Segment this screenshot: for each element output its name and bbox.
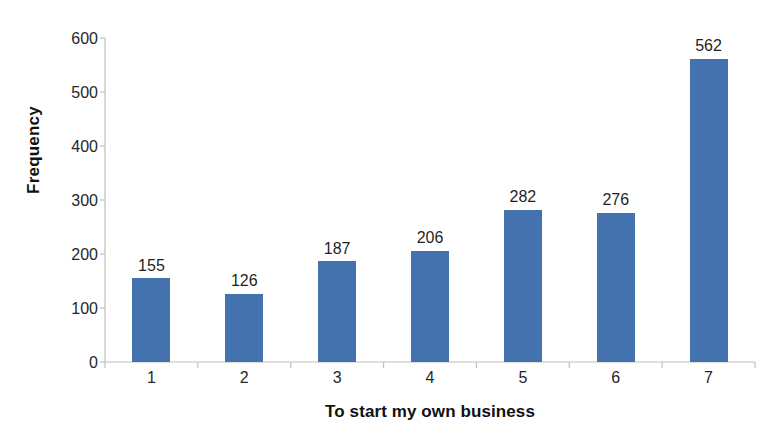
y-axis-title: Frequency [24,95,44,205]
y-tick-label-100: 100 [52,301,98,317]
x-tick-label-3: 3 [291,370,384,386]
bar-group-6: 276 [569,38,662,362]
bar-category-4[interactable] [411,251,449,362]
y-tick-label-400: 400 [52,139,98,155]
y-tick-label-500: 500 [52,85,98,101]
bar-category-7[interactable] [690,59,728,362]
y-tick-label-200: 200 [52,247,98,263]
bar-value-label-7: 562 [662,38,755,54]
y-axis-tick-labels: 600 500 400 300 200 100 0 [52,0,98,447]
x-tick-label-7: 7 [662,370,755,386]
x-axis-title: To start my own business [105,402,755,422]
bar-group-2: 126 [198,38,291,362]
x-tick-label-2: 2 [198,370,291,386]
bar-group-4: 206 [384,38,477,362]
bar-category-1[interactable] [132,278,170,362]
bar-category-5[interactable] [504,210,542,362]
bar-value-label-1: 155 [105,258,198,274]
bar-chart: Frequency 600 500 400 300 200 100 0 [0,0,782,447]
bar-value-label-2: 126 [198,273,291,289]
bar-group-3: 187 [291,38,384,362]
x-tick-label-1: 1 [105,370,198,386]
bar-value-label-6: 276 [569,192,662,208]
y-tick-label-600: 600 [52,31,98,47]
x-tick-label-5: 5 [476,370,569,386]
bar-value-label-5: 282 [476,189,569,205]
x-tick-label-4: 4 [384,370,477,386]
x-axis-ticks [105,362,755,368]
plot-area: 155 126 187 206 282 276 562 [105,38,755,362]
bar-category-6[interactable] [597,213,635,362]
bar-value-label-3: 187 [291,241,384,257]
x-tick-label-6: 6 [569,370,662,386]
bar-group-5: 282 [476,38,569,362]
y-tick-label-0: 0 [52,355,98,371]
y-tick-label-300: 300 [52,193,98,209]
bar-group-1: 155 [105,38,198,362]
bar-value-label-4: 206 [384,230,477,246]
x-axis-tick-labels: 1 2 3 4 5 6 7 [105,370,755,394]
bar-category-3[interactable] [318,261,356,362]
bar-group-7: 562 [662,38,755,362]
bar-category-2[interactable] [225,294,263,362]
